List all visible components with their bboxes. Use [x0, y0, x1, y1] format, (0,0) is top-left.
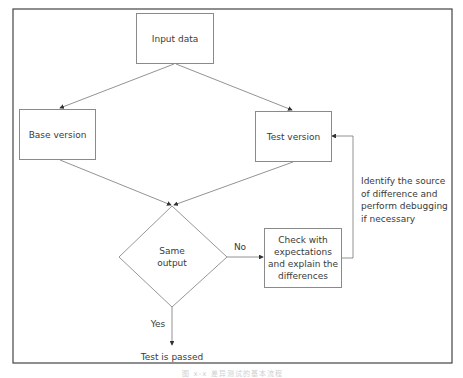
edge-label-no: No	[230, 241, 250, 253]
feedback-annotation: Identify the source of difference and pe…	[361, 175, 448, 225]
check-expectations-label: Check with expectations and explain the …	[268, 234, 338, 282]
edge-label-yes: Yes	[148, 318, 168, 330]
test-version-label: Test version	[267, 131, 321, 143]
test-passed-label: Test is passed	[132, 351, 212, 363]
check-expectations-node: Check with expectations and explain the …	[264, 228, 342, 288]
test-version-node: Test version	[255, 111, 332, 162]
base-version-node: Base version	[19, 109, 96, 160]
decision-label: Same output	[142, 245, 202, 269]
figure-caption: 图 x-x 差异测试的基本流程	[150, 368, 315, 378]
input-data-label: Input data	[152, 33, 198, 45]
base-version-label: Base version	[29, 129, 87, 141]
input-data-node: Input data	[136, 13, 214, 64]
